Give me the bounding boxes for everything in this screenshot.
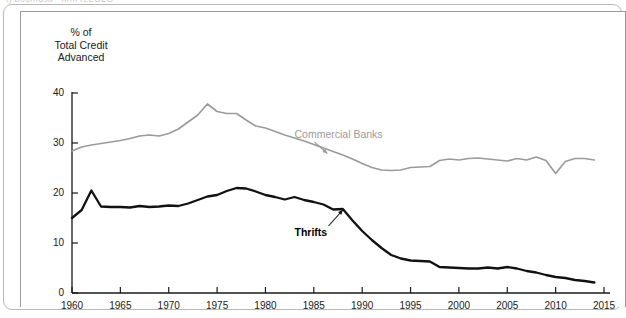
x-tick-label: 1985	[294, 300, 334, 311]
series-label-commercial-banks: Commercial Banks	[294, 128, 382, 140]
y-tick-label: 20	[38, 187, 64, 198]
series-label-thrifts: Thrifts	[294, 226, 327, 238]
bottom-whitespace	[0, 312, 626, 318]
x-tick-label: 1965	[100, 300, 140, 311]
x-tick-label: 1990	[342, 300, 382, 311]
x-tick-label: 2005	[487, 300, 527, 311]
y-tick-label: 40	[38, 87, 64, 98]
y-tick-label: 30	[38, 137, 64, 148]
x-tick-label: 1970	[149, 300, 189, 311]
x-tick-label: 1975	[197, 300, 237, 311]
y-tick-label: 0	[38, 287, 64, 298]
x-tick-label: 2015	[584, 300, 624, 311]
y-axis-title: % of Total Credit Advanced	[26, 26, 136, 64]
x-tick-label: 2010	[536, 300, 576, 311]
chart-page: f) boomusu · firm reLGLO % of Total Cred…	[0, 0, 626, 318]
x-tick-label: 1995	[391, 300, 431, 311]
y-tick-label: 10	[38, 237, 64, 248]
x-tick-label: 1960	[52, 300, 92, 311]
x-tick-label: 2000	[439, 300, 479, 311]
x-tick-label: 1980	[245, 300, 285, 311]
